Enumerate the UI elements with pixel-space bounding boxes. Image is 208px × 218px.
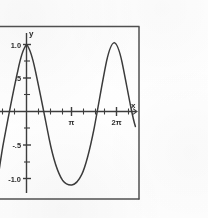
scanned-chart-figure: y x 1.0 .5 -.5 -1.0 π 2π xyxy=(0,0,208,218)
x-tick-label-2pi: 2π xyxy=(111,118,121,127)
cosine-plot: y x 1.0 .5 -.5 -1.0 π 2π xyxy=(0,0,208,218)
y-tick-label-1: 1.0 xyxy=(11,41,21,50)
y-tick-label-2: .5 xyxy=(15,74,21,83)
y-tick-label-4: -1.0 xyxy=(8,175,21,184)
x-axis-name: x xyxy=(131,101,136,110)
cosine-curve xyxy=(0,43,135,211)
x-tick-label-pi: π xyxy=(69,118,75,127)
y-tick-label-3: -.5 xyxy=(12,141,21,150)
y-axis-name: y xyxy=(29,29,34,38)
